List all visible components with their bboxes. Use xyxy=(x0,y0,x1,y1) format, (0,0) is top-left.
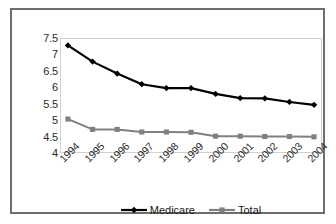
data-point xyxy=(237,95,243,101)
data-point xyxy=(188,85,194,91)
figure-frame: 44.555.566.577.5 19941995199619971998199… xyxy=(10,8,325,214)
data-point xyxy=(90,127,95,132)
data-point xyxy=(212,91,218,97)
series-medicare xyxy=(65,42,317,108)
legend-diamond-marker-icon xyxy=(121,205,147,215)
legend-item-medicare[interactable]: Medicare xyxy=(121,205,195,216)
data-point xyxy=(262,134,267,139)
y-axis-tick-label: 5 xyxy=(14,115,58,126)
y-axis-tick-label: 4 xyxy=(14,148,58,159)
y-axis-tick-label: 4.5 xyxy=(14,132,58,143)
data-point xyxy=(287,134,292,139)
data-point xyxy=(164,129,169,134)
data-point xyxy=(213,134,218,139)
y-axis-tick-label: 7.5 xyxy=(14,33,58,44)
chart-screenshot: 44.555.566.577.5 19941995199619971998199… xyxy=(0,0,336,224)
y-axis-tick-label: 6 xyxy=(14,82,58,93)
data-point xyxy=(311,134,316,139)
data-point xyxy=(238,134,243,139)
legend-item-total[interactable]: Total xyxy=(209,205,261,216)
data-point xyxy=(311,102,317,108)
y-axis-tick-label: 5.5 xyxy=(14,99,58,110)
legend-label: Total xyxy=(238,205,261,216)
y-axis: 44.555.566.577.5 xyxy=(12,10,58,224)
chart-legend: MedicareTotal xyxy=(60,201,322,219)
series-total xyxy=(65,117,316,140)
y-axis-tick-label: 7 xyxy=(14,49,58,60)
legend-square-marker-icon xyxy=(209,205,235,215)
data-point xyxy=(286,99,292,105)
series-plot xyxy=(61,39,321,152)
series-line xyxy=(68,45,314,104)
data-point xyxy=(139,129,144,134)
y-axis-tick-label: 6.5 xyxy=(14,66,58,77)
x-axis: 1994199519961997199819992000200120022003… xyxy=(60,156,322,202)
legend-label: Medicare xyxy=(150,205,195,216)
data-point xyxy=(139,81,145,87)
data-point xyxy=(115,127,120,132)
plot-area xyxy=(60,38,322,153)
data-point xyxy=(188,130,193,135)
data-point xyxy=(262,95,268,101)
data-point xyxy=(163,85,169,91)
data-point xyxy=(65,117,70,122)
